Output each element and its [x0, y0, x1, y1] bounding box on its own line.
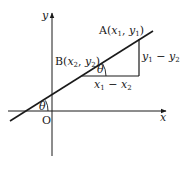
run-label: x1 − x2: [94, 78, 132, 92]
angle-arc-axis: [46, 101, 49, 112]
point-b-label: B(x2, y2): [55, 55, 100, 69]
point-a-label: A(x1, y1): [98, 24, 144, 38]
rise-label: y1 − y2: [141, 50, 180, 64]
slope-diagram: y x O A(x1, y1) B(x2, y2) θ θ x1 − x2 y1…: [0, 0, 184, 169]
angle-label-axis: θ: [39, 100, 46, 113]
x-axis-label: x: [160, 111, 167, 124]
origin-label: O: [42, 114, 51, 127]
angle-label-triangle: θ: [97, 63, 104, 76]
y-axis-label: y: [41, 9, 49, 22]
